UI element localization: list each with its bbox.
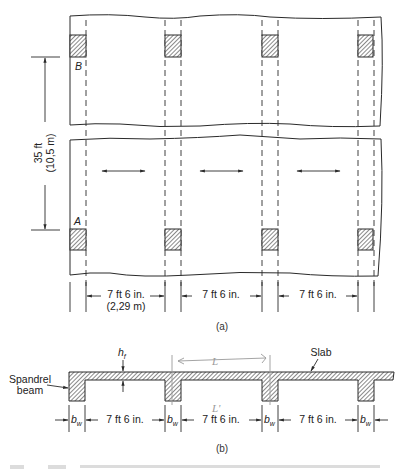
bw-label-1: bw xyxy=(71,413,83,427)
column xyxy=(165,35,181,57)
column xyxy=(262,35,278,57)
spandrel-label-line2: beam xyxy=(17,384,44,396)
beam-web-lines xyxy=(86,20,374,290)
column xyxy=(262,229,278,250)
spacing-label-3: 7 ft 6 in. xyxy=(299,288,336,300)
top-slab-panel xyxy=(70,15,382,127)
slab-leader xyxy=(311,359,318,371)
spandrel-leader xyxy=(47,385,68,388)
height-dimension-metric: (10,5 m) xyxy=(44,133,56,172)
height-dimension-imperial: 35 ft xyxy=(32,143,44,164)
columns-row-a xyxy=(70,229,373,250)
slab-and-beams-section xyxy=(69,372,394,401)
columns-row-b xyxy=(70,35,373,57)
bottom-slab-panel xyxy=(70,135,382,276)
structural-diagram: B A 35 ft (10,5 m) xyxy=(0,0,414,470)
column-b xyxy=(70,35,86,57)
clear-spacing-3: 7 ft 6 in. xyxy=(299,413,336,425)
handwritten-L: L xyxy=(211,355,218,367)
column-label-a: A xyxy=(73,215,81,227)
slab-label: Slab xyxy=(310,346,331,358)
column xyxy=(358,229,373,250)
faint-caption-strip xyxy=(10,465,380,469)
clear-spacing-2: 7 ft 6 in. xyxy=(202,413,239,425)
figure-label-b: (b) xyxy=(216,443,228,454)
vertical-dimension: 35 ft (10,5 m) xyxy=(31,57,60,230)
figure-label-a: (a) xyxy=(216,321,228,332)
column-label-b: B xyxy=(75,60,82,72)
spacing-dimensions: 7 ft 6 in. (2,29 m) 7 ft 6 in. 7 ft 6 in… xyxy=(70,282,374,312)
column xyxy=(165,229,181,250)
bw-label-2: bw xyxy=(167,413,179,427)
spacing-label-1-metric: (2,29 m) xyxy=(106,300,145,312)
flange-thickness-dimension: hf xyxy=(118,346,127,392)
plan-view: B A 35 ft (10,5 m) xyxy=(31,15,382,332)
section-view: L L' hf Spandrel beam Slab xyxy=(9,346,394,454)
hf-symbol: hf xyxy=(118,346,127,360)
spacing-label-1: 7 ft 6 in. xyxy=(107,288,144,300)
clear-spacing-1: 7 ft 6 in. xyxy=(106,413,143,425)
web-spacing-dimensions: bw bw bw bw 7 ft 6 in. 7 ft 6 in. 7 ft 6… xyxy=(55,405,388,432)
bw-label-3: bw xyxy=(264,413,276,427)
spacing-label-2: 7 ft 6 in. xyxy=(202,288,239,300)
bw-label-4: bw xyxy=(360,413,372,427)
column-a xyxy=(70,229,86,250)
column xyxy=(358,35,373,57)
